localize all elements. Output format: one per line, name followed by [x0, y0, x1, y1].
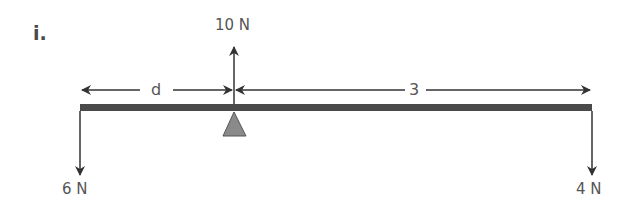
- dimension-3-label: 3: [405, 82, 423, 98]
- force-4n-label: 4 N: [576, 182, 602, 197]
- beam-diagram: [0, 0, 638, 218]
- beam: [80, 104, 592, 111]
- force-10n-label: 10 N: [215, 18, 250, 33]
- pivot-triangle: [223, 112, 246, 136]
- dimension-d-label: d: [147, 82, 165, 98]
- force-6n-label: 6 N: [62, 182, 88, 197]
